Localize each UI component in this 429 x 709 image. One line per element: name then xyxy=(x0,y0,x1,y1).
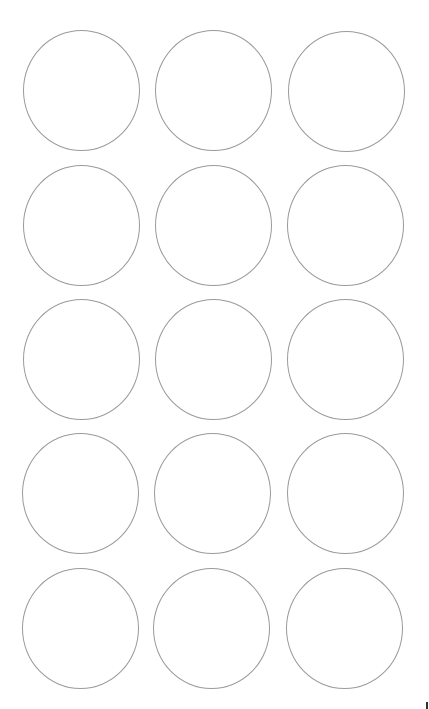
circle-label xyxy=(287,299,404,420)
circle-label xyxy=(155,299,272,420)
circle-label xyxy=(288,31,405,152)
circle-label xyxy=(287,165,404,286)
circle-label xyxy=(153,568,270,689)
circle-label xyxy=(286,568,403,689)
circle-label xyxy=(287,433,404,554)
circle-label xyxy=(23,30,140,151)
circle-label xyxy=(155,165,272,286)
circle-label xyxy=(154,433,271,554)
circle-label xyxy=(22,568,139,689)
circle-label xyxy=(23,299,140,420)
circle-label xyxy=(23,165,140,286)
circle-label xyxy=(155,30,272,151)
circle-label xyxy=(22,433,139,554)
corner-mark xyxy=(426,702,428,709)
label-sheet xyxy=(0,0,429,709)
